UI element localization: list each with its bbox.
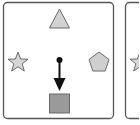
diagram-canvas [0, 0, 139, 125]
panel-1 [4, 3, 114, 119]
square-icon [50, 94, 70, 113]
panel-2 [126, 3, 140, 119]
